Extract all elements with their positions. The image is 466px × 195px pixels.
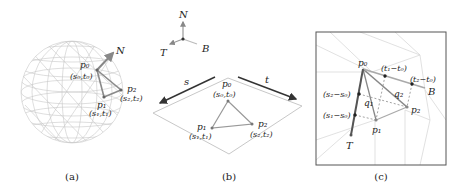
label-t: t	[265, 74, 270, 85]
label-p1-coord: (s₁,t₁)	[89, 109, 112, 118]
label-N: N	[178, 9, 189, 20]
label-p0: p₀	[222, 79, 232, 89]
label-p1: p₁	[372, 125, 381, 135]
panel-c: p₀ p₁ p₂ q₁ q₂ T B (t₁−t₀) (t₂−t₀) (s₂−s…	[316, 32, 446, 182]
label-t1-t0: (t₁−t₀)	[381, 64, 407, 73]
label-p0: p₀	[358, 58, 368, 68]
label-s1-s0: (s₁−s₀)	[323, 111, 351, 120]
label-p2: p₂	[127, 84, 137, 94]
label-p2-coord: (s₂,t₂)	[250, 130, 273, 139]
label-B: B	[427, 86, 435, 97]
label-t2-t0: (t₂−t₀)	[410, 75, 436, 84]
panel-b: N T B s t p₀ (s₀,t₀) p₁ (s₁,t₁) p₂ (s₂,t…	[153, 9, 302, 182]
caption-b: (b)	[222, 171, 236, 182]
panel-a: N p₀ (s₀,t₀) p₁ (s₁,t₁) p₂ (s₂,t₂) (a)	[21, 41, 143, 182]
label-N: N	[115, 45, 126, 56]
edge-p0-p1	[363, 69, 376, 120]
label-p2: p₂	[411, 105, 421, 115]
label-p2: p₂	[258, 119, 268, 129]
vertex-p2	[405, 105, 408, 108]
edge-p1-p2	[104, 90, 121, 97]
label-s: s	[184, 76, 189, 87]
label-p0-coord: (s₀,t₀)	[213, 90, 236, 99]
label-p0: p₀	[80, 60, 90, 70]
tbn-frame: N T B	[160, 9, 209, 58]
tangent-T	[351, 69, 363, 135]
vertex-p1	[211, 127, 214, 130]
label-q2: q₂	[394, 89, 404, 99]
normal-arrow	[97, 53, 113, 70]
sphere-mesh	[21, 41, 123, 145]
label-p1-coord: (s₁,t₁)	[189, 132, 212, 141]
vertex-p0	[95, 68, 98, 71]
vertex-p0	[227, 100, 230, 103]
caption-a: (a)	[65, 171, 79, 182]
vertex-p1	[102, 95, 105, 98]
label-p2-coord: (s₂,t₂)	[120, 94, 143, 103]
label-p0-coord: (s₀,t₀)	[70, 72, 93, 81]
label-q1: q₁	[364, 98, 373, 108]
label-T: T	[346, 140, 354, 151]
vertex-p1	[374, 118, 377, 121]
label-T: T	[160, 47, 168, 58]
caption-c: (c)	[374, 171, 388, 182]
label-s2-s0: (s₂−s₀)	[323, 90, 351, 99]
vertex-p2	[251, 123, 254, 126]
triangle	[212, 101, 252, 128]
edge-p1-p2	[376, 107, 407, 120]
vertex-p2	[119, 88, 122, 91]
figure: N p₀ (s₀,t₀) p₁ (s₁,t₁) p₂ (s₂,t₂) (a) N…	[0, 0, 466, 195]
label-B: B	[201, 43, 209, 54]
label-p1: p₁	[197, 122, 206, 132]
